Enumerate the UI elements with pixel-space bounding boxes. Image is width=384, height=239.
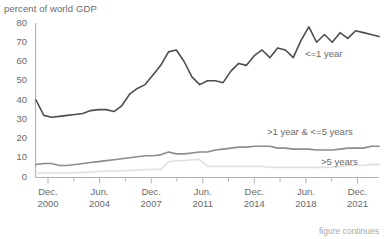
- chart-figure: percent of world GDP 80706050403020100 D…: [0, 0, 384, 239]
- series-label-mid: >1 year & <=5 years: [267, 126, 353, 137]
- y-axis-tick: 50: [3, 75, 27, 85]
- series-label-long: >5 years: [321, 156, 358, 167]
- x-axis-ticks: [48, 178, 357, 184]
- y-axis-tick: 60: [3, 56, 27, 66]
- series-line-short: [36, 27, 379, 117]
- y-axis-tick: 10: [3, 152, 27, 162]
- y-axis-tick: 30: [3, 114, 27, 124]
- y-axis-tick: 0: [3, 172, 27, 182]
- y-axis-tick: 70: [3, 37, 27, 47]
- axis-lines: [36, 23, 380, 178]
- y-axis-tick: 80: [3, 18, 27, 28]
- y-axis-tick: 20: [3, 133, 27, 143]
- x-axis-tick: Dec.2021: [330, 186, 384, 209]
- x-axis-tick: Jun.2004: [73, 186, 127, 209]
- x-axis-tick: Jun.2018: [279, 186, 333, 209]
- x-axis-tick: Dec.2000: [21, 186, 75, 209]
- x-axis-tick: Dec.2007: [124, 186, 178, 209]
- x-axis-tick: Jun.2011: [176, 186, 230, 209]
- y-axis-tick: 40: [3, 95, 27, 105]
- x-axis-tick: Dec.2014: [227, 186, 281, 209]
- series-label-short: <=1 year: [305, 48, 343, 59]
- figure-continues-note: figure continues: [319, 226, 379, 236]
